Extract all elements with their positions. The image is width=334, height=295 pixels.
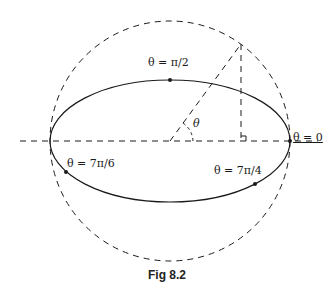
label-theta-7pi-6: θ = 7π/6 <box>67 157 115 170</box>
label-theta-pi-2: θ = π/2 <box>148 56 189 69</box>
label-theta-0: θ = 0 <box>293 131 323 144</box>
point-theta-0 <box>288 139 292 143</box>
label-angle-theta: θ <box>193 117 200 130</box>
ellipse-diagram <box>0 0 334 295</box>
point-theta-7pi-4 <box>253 182 257 186</box>
figure-caption: Fig 8.2 <box>0 268 334 282</box>
right-angle-marker <box>241 136 246 141</box>
point-theta-pi-2 <box>168 78 172 82</box>
point-theta-7pi-6 <box>64 170 68 174</box>
angle-arc <box>183 123 193 141</box>
label-theta-7pi-4: θ = 7π/4 <box>214 164 262 177</box>
